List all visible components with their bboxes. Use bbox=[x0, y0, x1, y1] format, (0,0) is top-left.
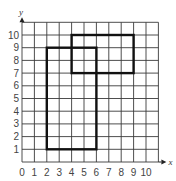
x-tick-label: 9 bbox=[131, 167, 137, 178]
y-tick-label: 1 bbox=[13, 144, 19, 155]
y-tick-label: 6 bbox=[13, 80, 19, 91]
y-tick-label: 8 bbox=[13, 55, 19, 66]
x-axis-label: x bbox=[167, 157, 172, 167]
x-tick-label: 1 bbox=[32, 167, 38, 178]
x-tick-label: 4 bbox=[69, 167, 75, 178]
x-tick-label: 5 bbox=[81, 167, 87, 178]
x-axis-arrow-icon bbox=[161, 160, 166, 165]
y-tick-label: 3 bbox=[13, 118, 19, 129]
x-tick-label: 10 bbox=[140, 167, 152, 178]
x-tick-label: 7 bbox=[106, 167, 112, 178]
shapes bbox=[47, 35, 134, 149]
x-tick-label: 0 bbox=[19, 167, 25, 178]
y-tick-label: 4 bbox=[13, 106, 19, 117]
y-tick-label: 10 bbox=[8, 30, 20, 41]
y-axis-arrow-icon bbox=[20, 17, 25, 22]
x-tick-label: 6 bbox=[94, 167, 100, 178]
y-tick-label: 9 bbox=[13, 42, 19, 53]
x-tick-label: 2 bbox=[44, 167, 50, 178]
grid-lines bbox=[22, 22, 158, 162]
y-tick-label: 5 bbox=[13, 93, 19, 104]
x-tick-label: 3 bbox=[56, 167, 62, 178]
coordinate-grid: 01234567891012345678910xy bbox=[0, 0, 176, 181]
y-tick-label: 2 bbox=[13, 131, 19, 142]
tick-labels: 01234567891012345678910xy bbox=[8, 7, 173, 178]
wide-rectangle bbox=[72, 35, 134, 73]
y-tick-label: 7 bbox=[13, 68, 19, 79]
axes bbox=[20, 17, 167, 164]
x-tick-label: 8 bbox=[118, 167, 124, 178]
y-axis-label: y bbox=[18, 7, 23, 17]
